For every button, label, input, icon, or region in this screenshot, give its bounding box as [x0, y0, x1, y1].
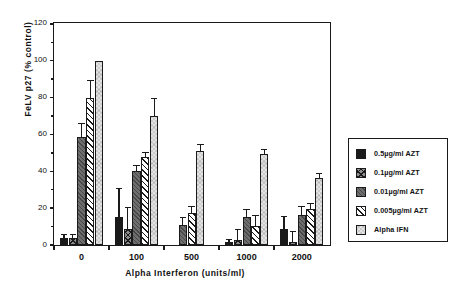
error-bar-cap [61, 234, 67, 235]
y-axis-tick-label: 20 [38, 203, 47, 213]
error-bar-cap [298, 206, 304, 207]
tick-mark [50, 207, 55, 208]
bar-100-series-2 [124, 229, 132, 245]
error-bar-cap [87, 80, 93, 81]
bar-500-series-3 [179, 225, 187, 245]
legend-label-2: 0.1µg/ml AZT [374, 168, 420, 177]
legend-box: 0.5µg/ml AZT0.1µg/ml AZT0.01µg/ml AZT0.0… [348, 138, 448, 242]
error-bar-cap [116, 188, 122, 189]
legend-swatch-2 [356, 168, 366, 178]
tick-mark [50, 60, 55, 61]
bars-layer [54, 23, 330, 245]
bar-500-series-5 [196, 151, 204, 245]
error-bar-500-series-3 [182, 218, 183, 225]
error-bar-2000-series-4 [310, 204, 311, 210]
error-bar-100-series-5 [154, 99, 155, 117]
error-bar-2000-series-1 [283, 217, 284, 230]
error-bar-500-series-5 [200, 145, 201, 152]
bar-0-series-3 [77, 137, 85, 245]
bar-1000-series-4 [251, 226, 259, 245]
bar-2000-series-1 [280, 229, 288, 245]
y-axis-tick-label: 100 [34, 55, 47, 65]
error-bar-1000-series-2 [237, 230, 238, 241]
bar-1000-series-3 [243, 217, 251, 245]
bar-100-series-3 [132, 171, 140, 245]
error-bar-0-series-2 [72, 235, 73, 239]
y-axis-tick-label: 60 [38, 129, 47, 139]
tick-mark [51, 42, 54, 43]
legend-swatch-1 [356, 149, 366, 159]
error-bar-cap [125, 207, 131, 208]
legend-label-3: 0.01µg/ml AZT [374, 187, 424, 196]
error-bar-1000-series-3 [246, 210, 247, 218]
tick-mark [51, 115, 54, 116]
error-bar-cap [197, 144, 203, 145]
x-axis-tick-label: 0 [60, 252, 104, 262]
error-bar-cap [243, 209, 249, 210]
tick-mark [51, 78, 54, 79]
error-bar-0-series-1 [63, 235, 64, 239]
error-bar-cap [290, 231, 296, 232]
bar-100-series-1 [115, 217, 123, 245]
y-axis-tick-label: 0 [43, 240, 47, 250]
tick-mark [51, 152, 54, 153]
x-axis-tick-label: 1000 [225, 252, 269, 262]
error-bar-100-series-2 [127, 208, 128, 230]
error-bar-1000-series-5 [264, 150, 265, 155]
bar-0-series-5 [95, 61, 103, 245]
error-bar-cap [142, 152, 148, 153]
y-axis-tick-label: 40 [38, 166, 47, 176]
error-bar-1000-series-4 [255, 216, 256, 226]
plot-area: 020406080100120010050010002000 [53, 22, 331, 246]
error-bar-2000-series-3 [301, 207, 302, 215]
error-bar-cap [261, 149, 267, 150]
error-bar-500-series-4 [191, 207, 192, 214]
tick-mark [50, 97, 55, 98]
bar-0-series-2 [69, 238, 77, 245]
bar-0-series-1 [60, 238, 68, 245]
tick-mark [53, 245, 54, 250]
error-bar-cap [316, 173, 322, 174]
error-bar-2000-series-2 [292, 232, 293, 243]
y-axis-tick-label: 120 [34, 18, 47, 28]
bar-100-series-5 [150, 116, 158, 245]
tick-mark [50, 23, 55, 24]
error-bar-cap [188, 206, 194, 207]
bar-500-series-4 [188, 213, 196, 245]
y-axis-title: FeLV p27 (% control) [23, 0, 33, 149]
legend-label-4: 0.005µg/ml AZT [374, 206, 428, 215]
error-bar-cap [78, 123, 84, 124]
error-bar-2000-series-5 [319, 174, 320, 179]
legend-label-1: 0.5µg/ml AZT [374, 149, 420, 158]
legend-item-5: Alpha IFN [349, 220, 447, 239]
x-axis-tick-label: 100 [115, 252, 159, 262]
error-bar-cap [252, 215, 258, 216]
legend-swatch-3 [356, 187, 366, 197]
tick-mark [108, 245, 109, 250]
error-bar-100-series-3 [136, 166, 137, 173]
legend-swatch-5 [356, 225, 366, 235]
x-axis-title: Alpha Interferon (units/ml) [40, 268, 330, 278]
tick-mark [50, 171, 55, 172]
tick-mark [51, 189, 54, 190]
x-axis-tick-label: 500 [170, 252, 214, 262]
bar-0-series-4 [86, 98, 94, 245]
tick-mark [51, 226, 54, 227]
error-bar-100-series-4 [145, 153, 146, 159]
bar-2000-series-5 [315, 178, 323, 245]
error-bar-cap [226, 239, 232, 240]
legend-item-4: 0.005µg/ml AZT [349, 201, 447, 220]
error-bar-cap [151, 98, 157, 99]
tick-mark [218, 245, 219, 250]
chart-figure: FeLV p27 (% control) Alpha Interferon (u… [0, 0, 456, 295]
tick-mark [163, 245, 164, 250]
tick-mark [50, 134, 55, 135]
tick-mark [273, 245, 274, 250]
bar-2000-series-3 [298, 215, 306, 245]
error-bar-cap [70, 234, 76, 235]
legend-item-2: 0.1µg/ml AZT [349, 163, 447, 182]
y-axis-tick-label: 80 [38, 92, 47, 102]
error-bar-1000-series-1 [228, 240, 229, 243]
bar-1000-series-5 [260, 154, 268, 245]
error-bar-0-series-4 [90, 81, 91, 99]
